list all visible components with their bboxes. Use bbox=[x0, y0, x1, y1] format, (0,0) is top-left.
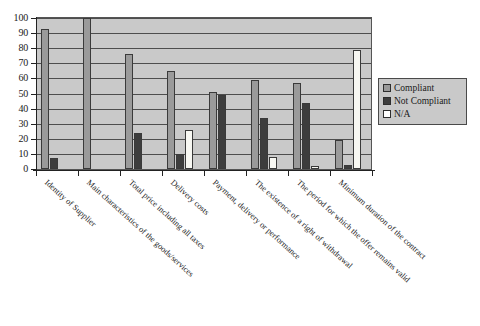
bar bbox=[83, 18, 92, 169]
x-axis-category-label: Delivery costs bbox=[169, 178, 211, 217]
bar bbox=[125, 54, 134, 169]
y-axis-tick-label: 10 bbox=[2, 149, 28, 159]
bar bbox=[176, 154, 185, 169]
y-axis-tick bbox=[31, 139, 37, 140]
y-axis-tick-label: 20 bbox=[2, 134, 28, 144]
x-axis-category-label: Total price including all taxes bbox=[127, 178, 207, 251]
bar bbox=[260, 118, 269, 169]
x-axis-tick bbox=[162, 171, 163, 176]
bars-layer bbox=[37, 18, 371, 169]
bar bbox=[251, 80, 260, 169]
x-axis-category-label: Payment, delivery or performance bbox=[211, 178, 302, 261]
bar bbox=[269, 157, 278, 169]
bar-chart: 1009080706050403020100 Identity of Suppl… bbox=[0, 0, 480, 326]
y-axis-tick bbox=[31, 63, 37, 64]
bar bbox=[41, 29, 50, 169]
y-axis-tick bbox=[31, 78, 37, 79]
legend-swatch-icon-not-compliant bbox=[383, 97, 391, 105]
legend-swatch-icon-compliant bbox=[383, 84, 391, 92]
bar bbox=[209, 92, 218, 169]
bar bbox=[167, 71, 176, 169]
bar bbox=[218, 95, 227, 169]
bar bbox=[311, 166, 320, 169]
y-axis-tick-label: 40 bbox=[2, 104, 28, 114]
x-axis-tick bbox=[288, 171, 289, 176]
bar bbox=[185, 130, 194, 169]
y-axis-tick-label: 0 bbox=[2, 164, 28, 174]
legend-item-not-compliant: Not Compliant bbox=[383, 95, 462, 107]
x-axis-tick bbox=[36, 171, 37, 176]
y-axis-tick bbox=[31, 169, 37, 170]
y-axis-tick-label: 50 bbox=[2, 89, 28, 99]
legend-label-not-compliant: Not Compliant bbox=[394, 96, 451, 106]
y-axis-tick-label: 90 bbox=[2, 28, 28, 38]
bar bbox=[50, 158, 59, 169]
bar bbox=[302, 103, 311, 169]
y-axis-tick bbox=[31, 48, 37, 49]
x-axis-tick bbox=[204, 171, 205, 176]
bar bbox=[335, 140, 344, 169]
legend-label-compliant: Compliant bbox=[394, 83, 434, 93]
y-axis-tick bbox=[31, 154, 37, 155]
y-axis-tick-label: 30 bbox=[2, 119, 28, 129]
legend-label-na: N/A bbox=[394, 109, 410, 119]
y-axis-tick bbox=[31, 33, 37, 34]
bar bbox=[134, 133, 143, 169]
bar bbox=[344, 165, 353, 170]
bar bbox=[293, 83, 302, 169]
legend-item-compliant: Compliant bbox=[383, 82, 462, 94]
x-axis-tick bbox=[78, 171, 79, 176]
legend-item-na: N/A bbox=[383, 108, 462, 120]
x-axis-tick bbox=[372, 171, 373, 176]
chart-legend: Compliant Not Compliant N/A bbox=[378, 78, 467, 125]
x-axis-tick bbox=[120, 171, 121, 176]
bar bbox=[353, 50, 362, 169]
y-axis-tick bbox=[31, 94, 37, 95]
x-axis-tick bbox=[246, 171, 247, 176]
y-axis-tick bbox=[31, 109, 37, 110]
x-axis-tick bbox=[330, 171, 331, 176]
y-axis-tick bbox=[31, 124, 37, 125]
legend-swatch-icon-na bbox=[383, 110, 391, 118]
plot-area bbox=[36, 17, 372, 170]
y-axis-tick bbox=[31, 18, 37, 19]
x-axis-category-label: Minimum duration of the contract bbox=[337, 178, 428, 261]
y-axis-tick-label: 80 bbox=[2, 43, 28, 53]
y-axis-tick-label: 60 bbox=[2, 73, 28, 83]
y-axis-tick-label: 100 bbox=[2, 13, 28, 23]
y-axis-tick-label: 70 bbox=[2, 58, 28, 68]
